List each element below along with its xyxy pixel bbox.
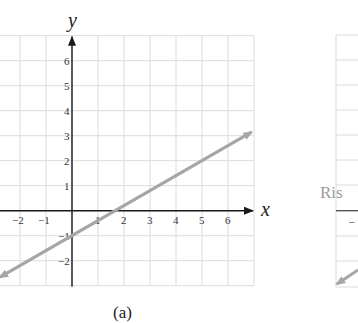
x-tick-label: 5 (199, 214, 205, 226)
graph-panel-a: −2−1123456654321−1−2 y x (a) (0, 9, 270, 322)
x-tick-label: 4 (173, 214, 179, 226)
figure-caption: (a) (113, 303, 132, 322)
y-tick-label: 1 (64, 180, 70, 192)
y-tick-label: 6 (64, 55, 70, 67)
x-tick-label: 6 (225, 214, 231, 226)
y-tick-label: 5 (64, 80, 70, 92)
grid (0, 36, 254, 286)
y-tick-label: −2 (58, 255, 70, 267)
y-tick-label: 4 (64, 105, 70, 117)
plot-line (0, 132, 251, 277)
x-tick-label: 3 (147, 214, 153, 226)
y-axis-label: y (66, 9, 77, 32)
axes (0, 37, 253, 287)
y-tick-label: 2 (64, 155, 70, 167)
x-tick-label: −1 (38, 214, 50, 226)
partial-tick-label: – (348, 215, 355, 227)
graph-panel-b-partial: Ris – (320, 35, 358, 287)
grid-partial (336, 35, 358, 287)
y-tick-label: 3 (64, 130, 70, 142)
figure: −2−1123456654321−1−2 y x (a) Ris – (0, 0, 358, 323)
x-tick-label: −2 (12, 214, 24, 226)
plot-line-partial (337, 270, 358, 284)
partial-label: Ris (320, 183, 343, 202)
plot-line-series (0, 132, 251, 277)
x-axis-label: x (260, 198, 270, 220)
x-tick-label: 2 (121, 214, 127, 226)
